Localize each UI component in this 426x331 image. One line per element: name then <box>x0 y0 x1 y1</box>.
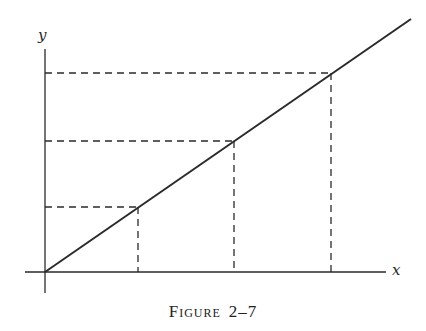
figure-caption: Figure2–7 <box>0 302 426 322</box>
figure-canvas <box>0 0 426 331</box>
x-axis-label: x <box>392 263 400 278</box>
caption-number: 2–7 <box>229 302 258 321</box>
proportional-line <box>45 19 411 272</box>
caption-word: Figure <box>169 302 221 321</box>
y-axis-label: y <box>38 28 46 43</box>
